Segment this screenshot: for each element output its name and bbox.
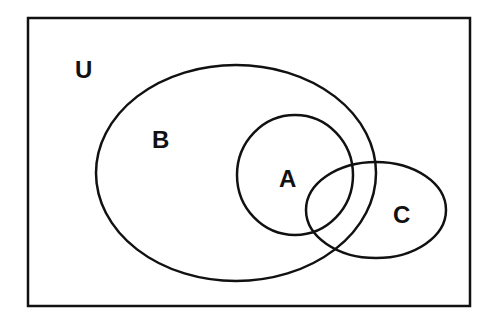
set-c-label: C [393, 201, 410, 228]
venn-diagram: U B A C [0, 0, 495, 322]
set-a-label: A [279, 165, 296, 192]
universe-rectangle [28, 18, 470, 306]
set-b-label: B [152, 126, 169, 153]
universe-label: U [75, 56, 92, 83]
